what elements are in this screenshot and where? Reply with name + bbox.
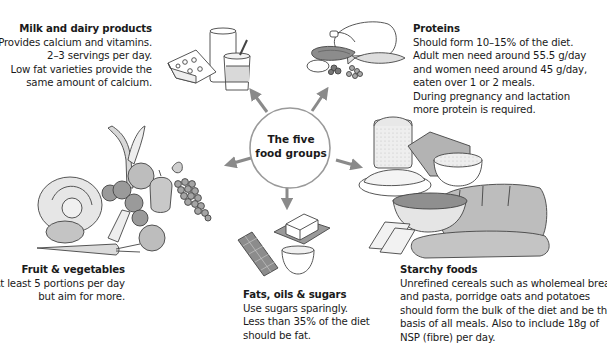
center-title-line1: The five <box>250 132 332 146</box>
proteins-line: more protein is required. <box>413 103 603 117</box>
proteins-title: Proteins <box>413 22 603 36</box>
proteins-line: and women need around 45 g/day, <box>413 63 603 77</box>
protein-illustration-icon <box>307 22 405 79</box>
arrow-to-proteins <box>312 92 325 111</box>
fruit-veg-line: At least 5 portions per day <box>0 277 125 291</box>
dairy-illustration-icon <box>168 28 250 90</box>
starchy-title: Starchy foods <box>400 263 605 277</box>
fruit-veg-title: Fruit & vegetables <box>0 263 125 277</box>
center-title-line2: food groups <box>250 146 332 160</box>
fruit-veg-text-block: Fruit & vegetables At least 5 portions p… <box>0 263 125 304</box>
arrow-to-dairy <box>253 93 267 112</box>
proteins-text-block: Proteins Should form 10–15% of the diet.… <box>413 22 603 117</box>
fats-line: Use sugars sparingly. <box>243 302 393 316</box>
fruit-veg-line: but aim for more. <box>0 290 125 304</box>
proteins-line: eaten over 1 or 2 meals. <box>413 76 603 90</box>
starchy-line: should form the bulk of the diet and be … <box>400 304 605 318</box>
starchy-line: NSP (fibre) per day. <box>400 331 605 345</box>
arrow-to-starchy <box>336 160 357 166</box>
dairy-text-block: Milk and dairy products Provides calcium… <box>0 22 152 90</box>
fruit-vegetable-illustration-icon <box>37 126 211 255</box>
dairy-line: 2–3 servings per day. <box>0 49 152 63</box>
starchy-line: and pasta, porridge oats and potatoes <box>400 290 605 304</box>
proteins-line: Adult men need around 55.5 g/day <box>413 49 603 63</box>
dairy-line: Low fat varieties provide the <box>0 63 152 77</box>
fats-text-block: Fats, oils & sugars Use sugars sparingly… <box>243 288 393 342</box>
dairy-line: Provides calcium and vitamins. <box>0 36 152 50</box>
fats-line: should be fat. <box>243 329 393 343</box>
starchy-line: basis of all meals. Also to include 18g … <box>400 317 605 331</box>
center-title: The five food groups <box>250 132 332 160</box>
starchy-foods-illustration-icon <box>359 117 549 258</box>
fats-title: Fats, oils & sugars <box>243 288 393 302</box>
proteins-line: During pregnancy and lactation <box>413 90 603 104</box>
starchy-line: Unrefined cereals such as wholemeal brea… <box>400 277 605 291</box>
dairy-line: same amount of calcium. <box>0 76 152 90</box>
starchy-text-block: Starchy foods Unrefined cereals such as … <box>400 263 605 344</box>
proteins-line: Should form 10–15% of the diet. <box>413 36 603 50</box>
fats-sugars-illustration-icon <box>238 214 330 276</box>
dairy-title: Milk and dairy products <box>0 22 152 36</box>
arrow-to-fruit-veg <box>230 158 251 164</box>
fats-line: Less than 35% of the diet <box>243 315 393 329</box>
